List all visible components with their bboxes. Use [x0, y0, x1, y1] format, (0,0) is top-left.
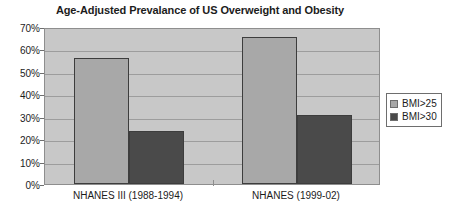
x-category-label: NHANES (1999-02) [212, 190, 380, 201]
bar-BMI30-cat1 [297, 115, 352, 184]
category-separator [213, 180, 214, 186]
legend-swatch-icon [390, 100, 398, 108]
chart-legend: BMI>25BMI>30 [386, 93, 442, 127]
y-tick-label: 30% [0, 112, 40, 123]
legend-label: BMI>25 [402, 98, 437, 109]
bar-BMI25-cat1 [242, 37, 297, 184]
chart-figure: Age-Adjusted Prevalance of US Overweight… [0, 0, 457, 216]
y-tick-label: 10% [0, 157, 40, 168]
gridline [45, 51, 379, 52]
plot-area [44, 28, 380, 185]
y-tick-label: 20% [0, 135, 40, 146]
legend-entry-BMI30: BMI>30 [390, 110, 437, 123]
legend-swatch-icon [390, 113, 398, 121]
y-axis: 0%10%20%30%40%50%60%70% [0, 28, 40, 185]
chart-title: Age-Adjusted Prevalance of US Overweight… [0, 4, 400, 16]
bar-BMI25-cat0 [74, 58, 129, 184]
y-tick-label: 0% [0, 180, 40, 191]
x-category-label: NHANES III (1988-1994) [44, 190, 212, 201]
y-tick-label: 70% [0, 23, 40, 34]
bar-BMI30-cat0 [129, 131, 184, 184]
legend-entry-BMI25: BMI>25 [390, 97, 437, 110]
y-tick-label: 50% [0, 67, 40, 78]
y-tick-label: 40% [0, 90, 40, 101]
x-axis: NHANES III (1988-1994)NHANES (1999-02) [44, 190, 380, 210]
legend-label: BMI>30 [402, 111, 437, 122]
y-tick-mark [40, 185, 44, 186]
y-tick-label: 60% [0, 45, 40, 56]
